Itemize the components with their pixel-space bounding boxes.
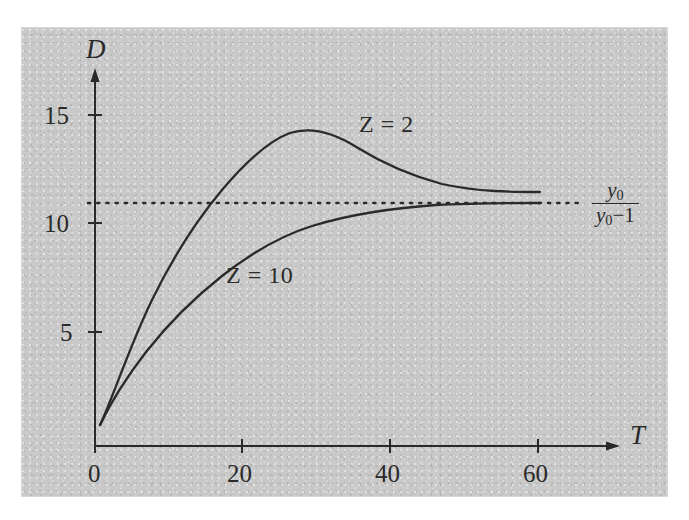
numerator-subscript: 0 [617,187,624,203]
y-axis-arrowhead [91,68,100,82]
curve-z-2 [100,130,540,425]
curve-z-10 [100,203,540,425]
asymptote-value-label: y0 y0−1 [592,180,639,228]
series-label-z-2: Z = 2 [359,112,414,136]
numerator-variable: y [607,178,616,202]
x-tick-label-0: 0 [88,461,101,486]
y-tick-label-5: 5 [60,320,73,345]
plot-canvas [0,0,689,520]
y-axis-title: D [86,36,106,63]
denominator-tail: −1 [612,203,634,227]
fraction-numerator: y0 [592,180,639,204]
x-tick-label-20: 20 [227,461,252,486]
fraction-denominator: y0−1 [592,204,639,227]
x-tick-label-40: 40 [375,461,400,486]
x-tick-label-60: 60 [523,461,548,486]
y-tick-label-10: 10 [44,211,69,236]
fraction: y0 y0−1 [592,180,639,228]
figure-root: 15 10 5 0 20 40 60 D T Z = 2 Z = 10 y0 y… [0,0,689,520]
series-label-z-10: Z = 10 [226,263,293,287]
x-axis-title: T [630,422,645,449]
y-tick-label-15: 15 [44,103,69,128]
x-axis-arrowhead [606,442,620,451]
denominator-variable: y [596,203,605,227]
axis-lines [91,68,621,451]
